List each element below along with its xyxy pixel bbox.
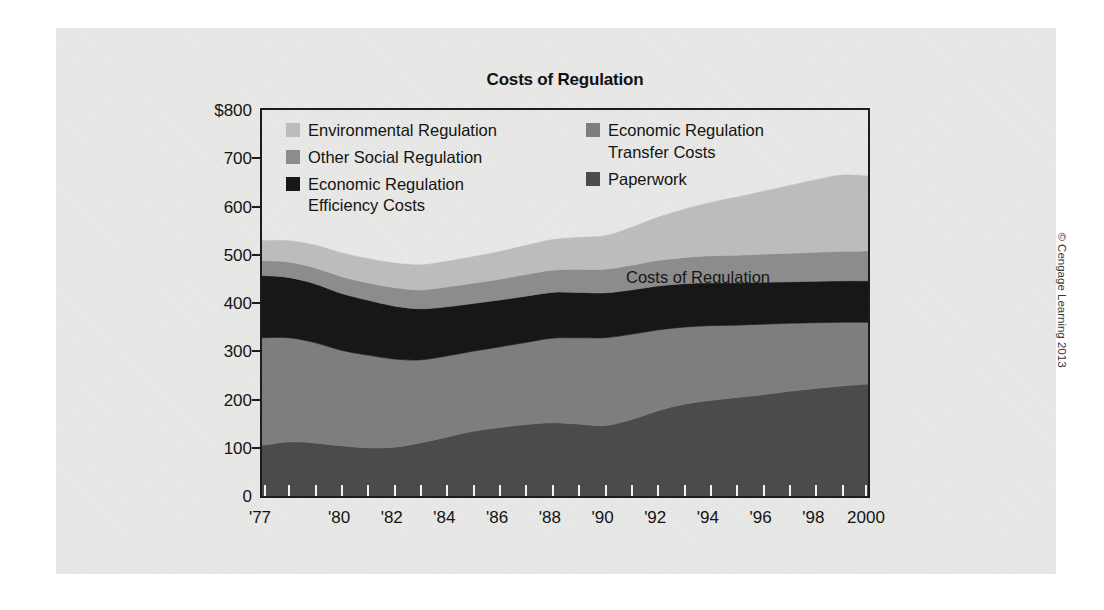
x-axis-tick-label: '77 <box>249 508 271 528</box>
x-axis-tick-label: '94 <box>697 508 719 528</box>
x-axis-tick-mark <box>815 485 817 496</box>
x-axis-tick-mark <box>578 485 580 496</box>
legend-swatch-icon <box>586 123 600 137</box>
x-axis-tick-label: '84 <box>433 508 455 528</box>
x-axis-tick-mark <box>264 485 266 496</box>
legend-entry: Paperwork <box>586 169 846 191</box>
x-axis-tick-label: '86 <box>486 508 508 528</box>
x-axis-tick-label: '88 <box>539 508 561 528</box>
legend-column-left: Environmental RegulationOther Social Reg… <box>286 120 586 222</box>
x-axis-tick-mark <box>525 485 527 496</box>
copyright-note: © Cengage Learning 2013 <box>1056 232 1068 367</box>
x-axis-tick-mark <box>499 485 501 496</box>
x-axis-tick-label: '90 <box>591 508 613 528</box>
x-axis-tick-mark <box>315 485 317 496</box>
legend-swatch-icon <box>286 177 300 191</box>
legend-label: Other Social Regulation <box>308 147 482 169</box>
x-axis-tick-label: '96 <box>750 508 772 528</box>
y-axis-tick-mark <box>252 399 262 401</box>
legend-column-right: Economic RegulationTransfer CostsPaperwo… <box>586 120 846 195</box>
x-axis-tick-mark <box>288 485 290 496</box>
x-axis-tick-mark <box>736 485 738 496</box>
legend-label: Environmental Regulation <box>308 120 497 142</box>
y-axis-tick-mark <box>252 302 262 304</box>
y-axis-tick-label: 600 <box>186 198 252 215</box>
x-axis-tick-mark <box>842 485 844 496</box>
x-axis-tick-mark <box>473 485 475 496</box>
x-axis-tick-mark <box>865 485 867 496</box>
legend-entry: Economic RegulationTransfer Costs <box>586 120 846 164</box>
legend-label: Economic RegulationEfficiency Costs <box>308 174 464 218</box>
x-axis-tick-mark <box>367 485 369 496</box>
figure-root: Costs of Regulation 01002003004005006007… <box>0 0 1104 610</box>
y-axis-tick-label: 500 <box>186 246 252 263</box>
legend-swatch-icon <box>286 123 300 137</box>
legend-swatch-icon <box>286 150 300 164</box>
legend-entry: Economic RegulationEfficiency Costs <box>286 174 586 218</box>
y-axis-tick-label: 200 <box>186 391 252 408</box>
y-axis-tick-label: 0 <box>186 488 252 505</box>
series-annotation-label: Costs of Regulation <box>626 268 770 287</box>
x-axis-tick-label: '82 <box>381 508 403 528</box>
x-axis-tick-mark <box>420 485 422 496</box>
y-axis-tick-mark <box>252 350 262 352</box>
y-axis-tick-mark <box>252 254 262 256</box>
y-axis-tick-label: $800 <box>186 102 252 119</box>
legend-entry: Environmental Regulation <box>286 120 586 142</box>
y-axis-tick-label: 700 <box>186 150 252 167</box>
x-axis-tick-mark <box>552 485 554 496</box>
legend-label-line2: Transfer Costs <box>608 142 764 164</box>
x-axis-tick-mark <box>789 485 791 496</box>
x-axis-tick-label: '98 <box>802 508 824 528</box>
y-axis-tick-label: 400 <box>186 295 252 312</box>
x-axis-labels: '77'80'82'84'86'88'90'92'94'96'982000 <box>260 508 870 538</box>
x-axis-tick-mark <box>631 485 633 496</box>
x-axis-tick-mark <box>394 485 396 496</box>
x-axis-tick-mark <box>446 485 448 496</box>
legend-entry: Other Social Regulation <box>286 147 586 169</box>
x-axis-tick-label: 2000 <box>847 508 885 528</box>
legend-label-line2: Efficiency Costs <box>308 195 464 217</box>
y-axis-tick-mark <box>252 447 262 449</box>
y-axis-labels: 0100200300400500600700$800 <box>178 108 252 498</box>
x-axis-tick-label: '80 <box>328 508 350 528</box>
chart-title: Costs of Regulation <box>260 70 870 90</box>
x-axis-tick-mark <box>763 485 765 496</box>
legend-label: Economic RegulationTransfer Costs <box>608 120 764 164</box>
x-axis-tick-mark <box>605 485 607 496</box>
x-axis-tick-mark <box>341 485 343 496</box>
y-axis-tick-label: 100 <box>186 439 252 456</box>
x-axis-tick-mark <box>657 485 659 496</box>
legend-label: Paperwork <box>608 169 687 191</box>
x-axis-tick-label: '92 <box>644 508 666 528</box>
x-axis-tick-mark <box>710 485 712 496</box>
y-axis-tick-label: 300 <box>186 343 252 360</box>
y-axis-tick-mark <box>252 157 262 159</box>
y-axis-tick-mark <box>252 206 262 208</box>
x-axis-tick-mark <box>684 485 686 496</box>
legend-swatch-icon <box>586 172 600 186</box>
